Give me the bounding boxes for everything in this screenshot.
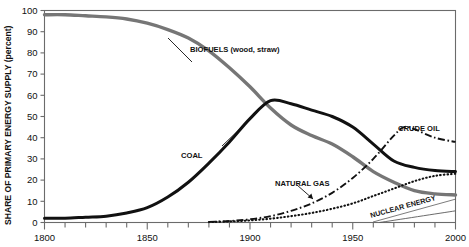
y-tick-label: 60 (27, 90, 38, 101)
y-axis: 0102030405060708090100 (22, 5, 45, 228)
biofuels-leader-line (168, 38, 192, 62)
x-tick-label: 1850 (137, 232, 158, 243)
y-tick-label: 10 (27, 196, 38, 207)
label-biofuels: BIOFUELS (wood, straw) (190, 45, 280, 54)
x-axis: 18001850190019502000 (34, 223, 466, 243)
y-tick-label: 50 (27, 111, 38, 122)
energy-share-chart: 0102030405060708090100 18001850190019502… (0, 0, 469, 247)
label-coal: COAL (181, 151, 203, 160)
x-tick-label: 1900 (239, 232, 260, 243)
x-tick-label: 1800 (34, 232, 55, 243)
coal-leader-line (222, 124, 245, 146)
label-crude-oil: CRUDE OIL (398, 124, 440, 133)
series-line-crude-oil (209, 127, 456, 222)
y-tick-label: 90 (27, 26, 38, 37)
y-tick-label: 40 (27, 132, 38, 143)
x-tick-label: 1950 (342, 232, 363, 243)
series-annotations: BIOFUELS (wood, straw) COAL CRUDE OIL NA… (181, 45, 440, 220)
chart-svg: 0102030405060708090100 18001850190019502… (0, 0, 469, 247)
y-tick-label: 0 (32, 217, 37, 228)
label-nuclear-energy: NUCLEAR ENERGY (369, 193, 437, 220)
y-tick-label: 30 (27, 153, 38, 164)
y-axis-title: SHARE OF PRIMARY ENERGY SUPPLY (percent) (3, 25, 13, 225)
series-line-biofuels-wood-straw (45, 15, 456, 195)
y-tick-label: 70 (27, 68, 38, 79)
label-natural-gas: NATURAL GAS (275, 179, 330, 188)
x-tick-label: 2000 (445, 232, 466, 243)
y-tick-label: 20 (27, 174, 38, 185)
series-line-coal (45, 100, 456, 219)
y-tick-label: 80 (27, 47, 38, 58)
y-tick-label: 100 (22, 5, 38, 16)
